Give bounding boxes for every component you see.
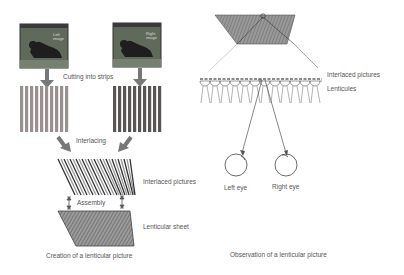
lenticular-sheet [58,211,134,246]
right-eye-icon [275,154,297,176]
interlacing-arrow-right [118,137,131,152]
right-photo [113,23,161,67]
rays-to-eyes [242,80,286,153]
photo-left-caption: Left image [53,33,65,41]
assembly-arrow-left [67,197,71,209]
cut-arrow-right [133,68,147,87]
cutting-label: Cutting into strips [63,74,113,81]
left-photo [20,24,68,68]
caption-left: Creation of a lenticular picture [46,253,132,260]
diagram-canvas [0,0,404,275]
caption-right: Observation of a lenticular picture [230,252,327,259]
right-eye-label: Right eye [272,184,299,191]
lenticular-sheet-label: Lenticular sheet [143,224,189,231]
right-strips [113,86,161,132]
assembly-label: Assembly [77,200,105,207]
left-eye-icon [225,154,247,176]
interlacing-label: Interlacing [76,138,106,145]
lenticules-label: Lenticules [327,86,356,93]
interlaced-label-left: Interlaced pictures [143,179,196,186]
cut-arrow-left [40,69,54,88]
left-strips [20,86,68,132]
left-eye-label: Left eye [224,185,247,192]
lenticular-picture-top [215,15,295,44]
photo-right-caption: Right image [146,32,158,40]
interlacing-arrow-left [58,137,71,152]
interlaced-picture [58,159,135,195]
interlaced-label-right: Interlaced pictures [327,72,380,79]
assembly-arrow-right [120,196,124,208]
